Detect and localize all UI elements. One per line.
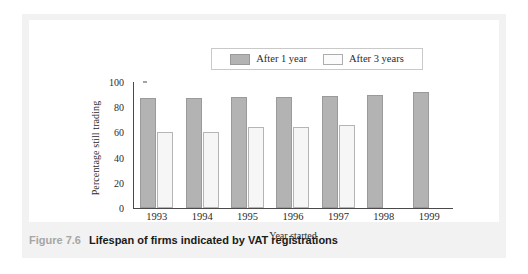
- bar-groups: [134, 82, 452, 208]
- y-tick-label: 0: [119, 203, 124, 214]
- bar-group: [317, 82, 359, 208]
- legend-swatch-after-1-year: [230, 54, 250, 65]
- bar-after-1-year[interactable]: [186, 98, 202, 208]
- chart-legend: After 1 year After 3 years: [211, 48, 423, 70]
- bar-group: [272, 82, 314, 208]
- x-axis-tick-labels: 1993199419951996199719981999: [134, 211, 452, 222]
- bar-group: [408, 82, 450, 208]
- x-tick-label: 1995: [227, 211, 269, 222]
- bar-after-1-year[interactable]: [367, 95, 383, 208]
- bar-group: [136, 82, 178, 208]
- y-tick-label: 20: [114, 177, 124, 188]
- legend-label-after-1-year: After 1 year: [256, 54, 307, 65]
- y-axis-title: Percentage still trading: [90, 82, 104, 214]
- y-tick-label: 80: [114, 102, 124, 113]
- bar-after-3-years[interactable]: [203, 132, 219, 208]
- x-tick-label: 1998: [363, 211, 405, 222]
- x-tick-label: 1997: [317, 211, 359, 222]
- bar-after-1-year[interactable]: [140, 98, 156, 208]
- bar-after-1-year[interactable]: [413, 92, 429, 208]
- x-tick-label: 1993: [136, 211, 178, 222]
- y-tick-label: 40: [114, 152, 124, 163]
- bar-after-1-year[interactable]: [276, 97, 292, 208]
- figure-caption: Figure 7.6 Lifespan of firms indicated b…: [29, 232, 499, 248]
- legend-item-after-3-years[interactable]: After 3 years: [323, 54, 404, 65]
- figure-title: Lifespan of firms indicated by VAT regis…: [89, 234, 338, 246]
- bar-group: [363, 82, 405, 208]
- x-axis-line: [133, 208, 453, 209]
- bar-after-1-year[interactable]: [231, 97, 247, 208]
- bar-after-3-years[interactable]: [248, 127, 264, 208]
- bar-group: [227, 82, 269, 208]
- bar-group: [181, 82, 223, 208]
- figure-container: After 1 year After 3 years Percentage st…: [0, 0, 528, 274]
- legend-label-after-3-years: After 3 years: [349, 54, 404, 65]
- x-tick-label: 1996: [272, 211, 314, 222]
- legend-item-after-1-year[interactable]: After 1 year: [230, 54, 307, 65]
- figure-number: Figure 7.6: [29, 234, 81, 246]
- plot-area: Percentage still trading 020406080100 19…: [89, 82, 459, 214]
- y-tick-label: 60: [114, 127, 124, 138]
- y-tick-label: 100: [109, 77, 124, 88]
- x-tick-label: 1999: [408, 211, 450, 222]
- x-tick-label: 1994: [181, 211, 223, 222]
- bar-after-1-year[interactable]: [322, 96, 338, 208]
- bar-after-3-years[interactable]: [339, 125, 355, 208]
- chart-panel: After 1 year After 3 years Percentage st…: [29, 20, 499, 222]
- bar-after-3-years[interactable]: [293, 127, 309, 208]
- y-axis-ticks: 020406080100: [103, 82, 129, 208]
- bar-after-3-years[interactable]: [157, 132, 173, 208]
- legend-swatch-after-3-years: [323, 54, 343, 65]
